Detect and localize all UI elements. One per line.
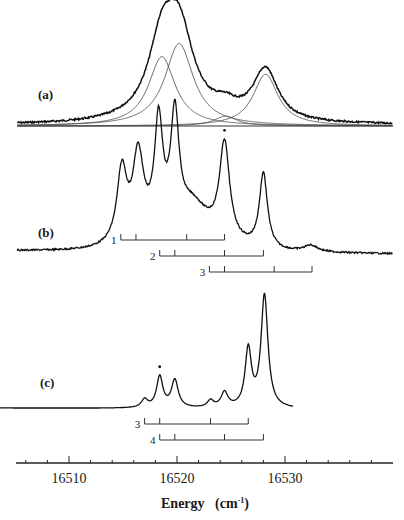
spectrum-envelope — [17, 0, 392, 124]
progression-2: 2 — [150, 250, 263, 262]
fit-component-1 — [17, 57, 392, 126]
x-axis-title-unit: (cm — [215, 496, 238, 512]
x-axis-title-main: Energy — [161, 496, 205, 511]
spectra-figure: 12334 16510 16520 16530 Energy (cm-1) (a… — [0, 0, 404, 520]
fit-component-2 — [17, 44, 392, 126]
panel-label-b: (b) — [38, 225, 54, 240]
spectra-chart: 12334 16510 16520 16530 Energy (cm-1) (a… — [0, 0, 404, 520]
progression-3: 3 — [135, 418, 248, 430]
progression-label: 2 — [150, 250, 156, 262]
progression-label: 3 — [135, 418, 141, 430]
x-tick-label: 16530 — [268, 471, 303, 486]
x-axis: 16510 16520 16530 Energy (cm-1) — [16, 456, 393, 512]
progression-1: 1 — [111, 234, 224, 246]
panel-label-c: (c) — [40, 375, 54, 390]
panel-a — [17, 0, 393, 126]
x-axis-title-sup: -1 — [238, 496, 245, 505]
progression-4: 4 — [150, 434, 263, 446]
panel-label-a: (a) — [38, 87, 53, 102]
panel-c: 34 — [0, 293, 293, 446]
x-axis-title-close: ) — [244, 496, 249, 512]
progression-label: 3 — [200, 266, 206, 278]
x-tick-label: 16520 — [160, 471, 195, 486]
progression-3: 3 — [200, 266, 312, 278]
spectrum-line — [0, 293, 293, 408]
x-axis-title: Energy (cm-1) — [161, 496, 249, 512]
x-tick-label: 16510 — [52, 471, 87, 486]
star-marker — [223, 129, 226, 132]
progression-label: 1 — [111, 234, 117, 246]
star-marker — [158, 365, 161, 368]
progression-label: 4 — [150, 434, 156, 446]
